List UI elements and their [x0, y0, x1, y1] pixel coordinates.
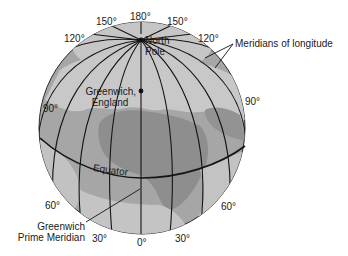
label-greenwich-england-line2: England: [84, 97, 136, 108]
label-north-pole-line1: North: [145, 35, 169, 46]
label-30-right: 30°: [175, 233, 190, 244]
north-pole-dot: [139, 38, 144, 43]
label-north-pole: North Pole: [145, 35, 169, 57]
greenwich-dot: [139, 89, 144, 94]
label-120-left: 120°: [64, 33, 85, 44]
label-150-left: 150°: [96, 16, 117, 27]
label-150-right: 150°: [167, 16, 188, 27]
label-90-left: 90°: [43, 103, 58, 114]
label-meridians-of-longitude: Meridians of longitude: [235, 38, 333, 49]
label-prime-meridian-line1: Greenwich: [10, 221, 85, 232]
label-60-left: 60°: [45, 200, 60, 211]
globe-diagram: 180° 150° 150° 120° 120° Meridians of lo…: [0, 0, 348, 256]
label-180: 180°: [130, 11, 151, 22]
label-greenwich-england-line1: Greenwich,: [84, 86, 136, 97]
label-90-right: 90°: [245, 96, 260, 107]
label-prime-meridian: Greenwich Prime Meridian: [10, 221, 85, 243]
label-0: 0°: [137, 237, 147, 248]
label-greenwich-england: Greenwich, England: [84, 86, 136, 108]
label-prime-meridian-line2: Prime Meridian: [10, 232, 85, 243]
label-120-right: 120°: [198, 33, 219, 44]
label-60-right: 60°: [221, 201, 236, 212]
label-north-pole-line2: Pole: [145, 46, 169, 57]
label-30-left: 30°: [92, 233, 107, 244]
